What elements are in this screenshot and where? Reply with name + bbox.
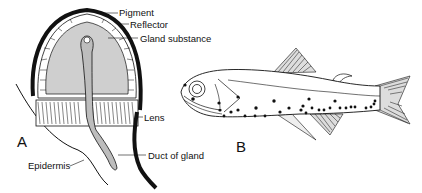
anal-fin xyxy=(310,114,343,135)
label-pigment: Pigment xyxy=(119,8,154,18)
label-lens: Lens xyxy=(144,113,165,123)
lanternfish-drawing xyxy=(181,48,410,140)
panel-letter-b: B xyxy=(236,139,246,154)
label-gland-substance: Gland substance xyxy=(140,34,211,44)
pelvic-fin xyxy=(278,114,316,140)
panel-letter-a: A xyxy=(17,134,27,149)
fish-body xyxy=(181,69,380,116)
label-duct-of-gland: Duct of gland xyxy=(148,151,204,161)
dorsal-fin xyxy=(273,48,316,73)
label-epidermis: Epidermis xyxy=(28,161,70,171)
label-reflector: Reflector xyxy=(130,20,168,30)
